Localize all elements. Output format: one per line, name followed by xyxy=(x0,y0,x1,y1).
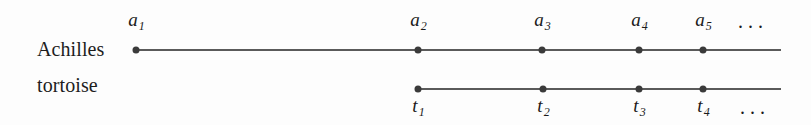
tick-label-base: t xyxy=(697,95,702,116)
tick-label-subscript: 2 xyxy=(544,105,550,119)
tick-label-a2: a2 xyxy=(410,9,426,31)
tick-label-base: a xyxy=(128,9,138,30)
tick-label-t2: t2 xyxy=(537,95,548,117)
tick-label-base: a xyxy=(534,9,544,30)
row-label-achilles: Achilles xyxy=(37,38,104,61)
tick-label-base: a xyxy=(410,9,420,30)
tick-label-subscript: 4 xyxy=(704,105,710,119)
point-marker-a1 xyxy=(133,47,140,54)
tick-label-subscript: 4 xyxy=(642,19,648,33)
timeline-achilles xyxy=(136,49,781,51)
point-marker-a2 xyxy=(415,47,422,54)
tick-label-base: t xyxy=(633,95,638,116)
point-marker-t1 xyxy=(415,86,422,93)
tick-label-base: a xyxy=(695,9,705,30)
point-marker-t3 xyxy=(636,86,643,93)
tick-label-subscript: 5 xyxy=(706,19,712,33)
tick-label-t1: t1 xyxy=(412,95,423,117)
point-marker-a5 xyxy=(700,47,707,54)
row-label-tortoise: tortoise xyxy=(37,74,98,97)
tick-label-base: a xyxy=(631,9,641,30)
tick-label-subscript: 3 xyxy=(545,19,551,33)
tick-label-subscript: 1 xyxy=(139,19,145,33)
tick-label-t4: t4 xyxy=(697,95,708,117)
point-marker-a4 xyxy=(636,47,643,54)
point-marker-a3 xyxy=(539,47,546,54)
tick-label-subscript: 1 xyxy=(419,105,425,119)
tick-label-a4: a4 xyxy=(631,9,647,31)
tick-label-a1: a1 xyxy=(128,9,144,31)
tick-label-subscript: 3 xyxy=(640,105,646,119)
tick-label-a3: a3 xyxy=(534,9,550,31)
ellipsis-tortoise: ... xyxy=(740,96,770,119)
timeline-tortoise xyxy=(418,88,781,90)
tick-label-base: t xyxy=(537,95,542,116)
ellipsis-achilles: ... xyxy=(738,10,768,33)
tick-label-subscript: 2 xyxy=(421,19,427,33)
tick-label-a5: a5 xyxy=(695,9,711,31)
point-marker-t4 xyxy=(700,86,707,93)
tick-label-t3: t3 xyxy=(633,95,644,117)
zeno-achilles-tortoise-diagram: Achilles a1a2a3a4a5 ... tortoise t1t2t3t… xyxy=(0,0,811,125)
tick-label-base: t xyxy=(412,95,417,116)
point-marker-t2 xyxy=(540,86,547,93)
